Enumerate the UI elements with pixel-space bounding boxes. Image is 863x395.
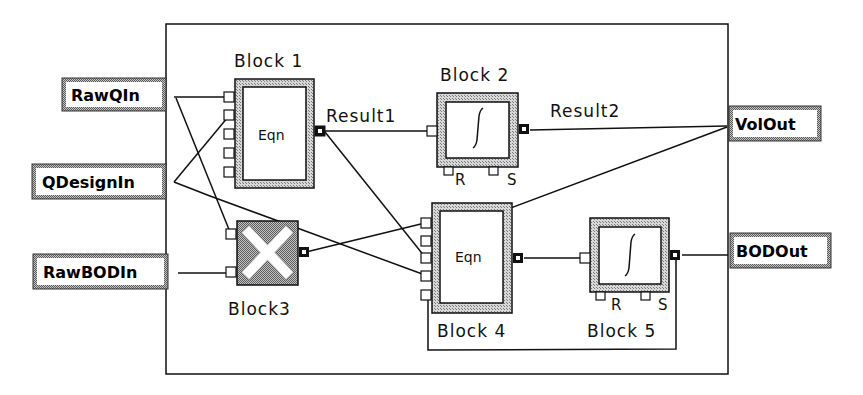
signal-result2-label: Result2 [550,101,620,121]
input-rawbodin[interactable]: RawBODIn [33,254,168,289]
block-4-input-port-4[interactable] [421,271,431,281]
block-4-input-port-3[interactable] [421,253,431,263]
signal-result1-label: Result1 [326,106,396,126]
block-1-input-port-3[interactable] [224,129,234,139]
block-3-label: Block3 [228,299,291,319]
block-1-label: Block 1 [234,51,303,71]
block-2-input-port[interactable] [427,126,437,136]
block-5-port-r-label: R [611,296,621,314]
block-5-input-port[interactable] [580,253,590,263]
output-volout[interactable]: VolOut [729,106,821,141]
block-5-port-s-label: S [658,296,668,314]
block-4-label: Block 4 [437,321,506,341]
block-5-set-port[interactable] [641,292,650,300]
output-bodout[interactable]: BODOut [730,233,831,268]
block-1-input-port-4[interactable] [224,148,234,158]
block-5-label: Block 5 [587,321,656,341]
block-2-port-s-label: S [507,171,517,189]
block-4-input-port-5[interactable] [421,290,431,300]
input-rawqin-label: RawQIn [71,86,140,105]
block-4-input-port-2[interactable] [421,236,431,246]
block-2-set-port[interactable] [489,167,498,175]
model-diagram-canvas: Block 1 Eqn Result1 Block 2 R S Result2 [0,0,863,395]
output-volout-label: VolOut [735,115,796,134]
block-3-input-port-2[interactable] [226,267,236,277]
block-5-reset-port[interactable] [596,292,605,300]
output-bodout-label: BODOut [736,242,808,261]
block-4-input-port-1[interactable] [421,218,431,228]
block-2-reset-port[interactable] [444,167,453,175]
input-rawbodin-label: RawBODIn [43,263,137,282]
block-2-port-r-label: R [455,171,465,189]
block-2-label: Block 2 [440,65,509,85]
input-qdesignin[interactable]: QDesignIn [32,164,166,199]
input-qdesignin-label: QDesignIn [42,173,135,192]
block-1-body: Eqn [258,127,285,143]
block-1-input-port-5[interactable] [224,167,234,177]
input-rawqin[interactable]: RawQIn [62,78,166,111]
block-4-body: Eqn [455,249,482,265]
block-3-input-port-1[interactable] [226,229,236,239]
block-1-input-port-1[interactable] [224,92,234,102]
block-1-input-port-2[interactable] [224,110,234,120]
